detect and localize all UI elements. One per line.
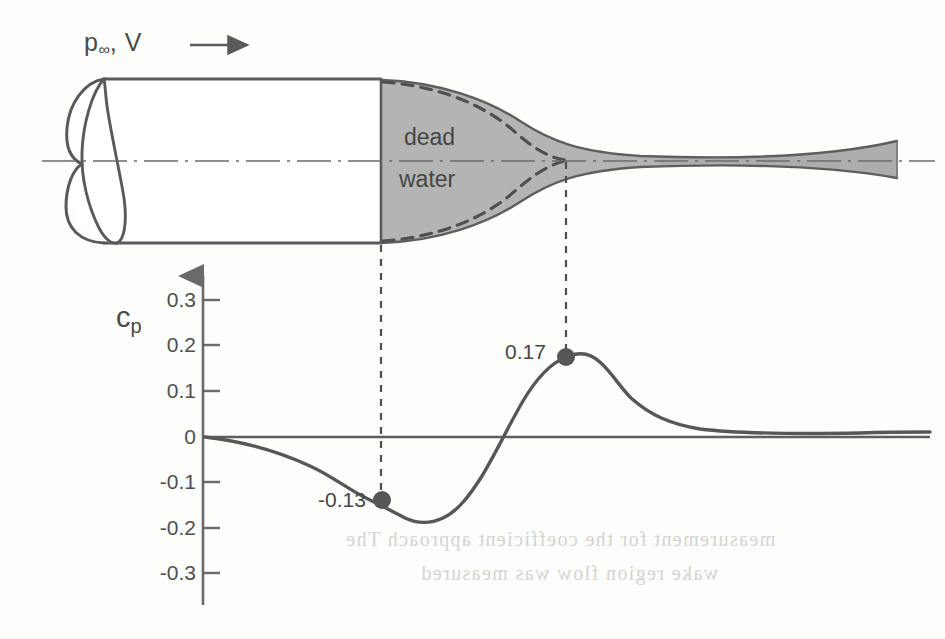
infinity-subscript: ∞ bbox=[98, 41, 109, 58]
ytick-label-1: 0.2 bbox=[148, 334, 196, 355]
ytick-label-5: -0.2 bbox=[138, 517, 196, 538]
cp-datapoint-marker-maximum bbox=[557, 348, 575, 366]
ytick-label-4: -0.1 bbox=[138, 471, 196, 492]
annotation-label-maximum: 0.17 bbox=[505, 341, 546, 362]
annotation-label-minimum: -0.13 bbox=[318, 489, 366, 510]
freestream-condition-label: p∞, V bbox=[84, 30, 142, 58]
ytick-label-3: 0 bbox=[148, 426, 196, 447]
wake-label-water: water bbox=[399, 168, 455, 191]
ytick-label-6: -0.3 bbox=[138, 562, 196, 583]
cp-axis-label-main: c bbox=[116, 301, 131, 333]
ytick-label-2: 0.1 bbox=[148, 380, 196, 401]
cp-axis-label-subscript: p bbox=[131, 315, 142, 337]
pressure-distribution-figure: measurement for the coefficient approach… bbox=[0, 0, 945, 639]
freestream-pressure-symbol: p bbox=[84, 28, 98, 56]
wake-label-dead: dead bbox=[404, 126, 455, 149]
ytick-label-0: 0.3 bbox=[148, 289, 196, 310]
cp-plot bbox=[203, 276, 930, 605]
freestream-velocity-symbol: , V bbox=[110, 28, 142, 56]
figure-artwork bbox=[0, 0, 945, 639]
cp-axis-label: cp bbox=[116, 303, 142, 336]
cp-datapoint-marker-minimum bbox=[373, 491, 391, 509]
cp-curve bbox=[205, 354, 930, 523]
